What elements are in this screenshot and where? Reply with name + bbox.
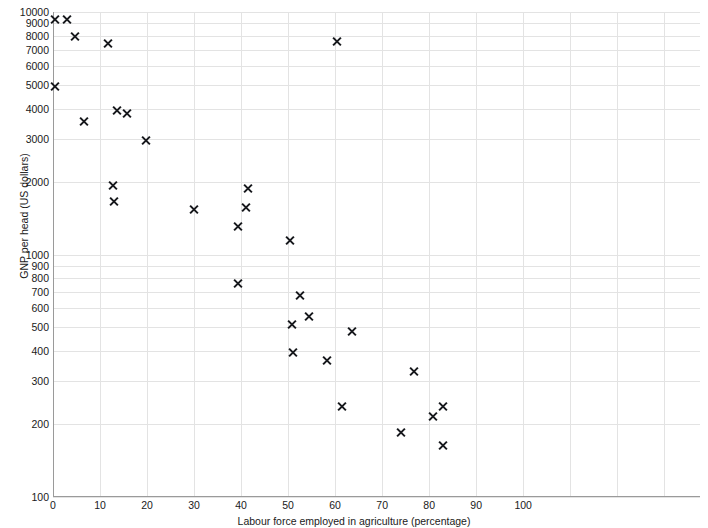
data-point (78, 116, 89, 127)
x-tick-label-10: 10 (94, 500, 106, 511)
data-point (322, 355, 333, 366)
data-point (243, 183, 254, 194)
data-point (438, 401, 449, 412)
y-tick-label-10000: 10000 (20, 7, 49, 18)
y-tick-label-600: 600 (31, 303, 49, 314)
gridline-y-10000 (53, 12, 700, 13)
gridline-y-9000 (53, 23, 700, 24)
y-tick-label-300: 300 (31, 376, 49, 387)
x-tick-label-70: 70 (376, 500, 388, 511)
y-tick-label-700: 700 (31, 287, 49, 298)
data-point (233, 221, 244, 232)
x-tick-label-50: 50 (282, 500, 294, 511)
gridline-y-4000 (53, 109, 700, 110)
plot-area (53, 12, 700, 497)
x-axis-title: Labour force employed in agriculture (pe… (0, 515, 708, 527)
y-tick-label-9000: 9000 (26, 18, 49, 29)
data-point (121, 108, 132, 119)
y-tick-label-200: 200 (31, 419, 49, 430)
gridline-y-300 (53, 381, 700, 382)
gridline-y-5000 (53, 85, 700, 86)
gridline-y-500 (53, 327, 700, 328)
gridline-y-400 (53, 351, 700, 352)
data-point (111, 105, 122, 116)
y-tick-label-500: 500 (31, 322, 49, 333)
data-point (332, 36, 343, 47)
gridline-y-600 (53, 308, 700, 309)
x-tick-label-60: 60 (329, 500, 341, 511)
gridline-y-100 (53, 497, 700, 498)
y-tick-label-400: 400 (31, 346, 49, 357)
gridline-y-7000 (53, 50, 700, 51)
data-point (103, 38, 114, 49)
x-tick-label-100: 100 (514, 500, 532, 511)
x-tick-label-30: 30 (188, 500, 200, 511)
gridline-y-6000 (53, 66, 700, 67)
data-point (395, 427, 406, 438)
x-tick-label-20: 20 (141, 500, 153, 511)
data-point (285, 235, 296, 246)
x-tick-label-0: 0 (50, 500, 56, 511)
x-tick-label-40: 40 (235, 500, 247, 511)
y-tick-label-8000: 8000 (26, 30, 49, 41)
gridline-y-8000 (53, 36, 700, 37)
gridline-y-700 (53, 292, 700, 293)
y-tick-label-900: 900 (31, 260, 49, 271)
y-tick-label-7000: 7000 (26, 44, 49, 55)
gridline-y-3000 (53, 139, 700, 140)
gridline-y-800 (53, 278, 700, 279)
x-tick-label-80: 80 (423, 500, 435, 511)
data-point (438, 440, 449, 451)
data-point (109, 196, 120, 207)
gridline-y-900 (53, 266, 700, 267)
data-point (140, 135, 151, 146)
data-point (70, 31, 81, 42)
x-axis-line (53, 496, 700, 497)
y-tick-label-6000: 6000 (26, 61, 49, 72)
gridline-y-200 (53, 424, 700, 425)
x-tick-label-90: 90 (470, 500, 482, 511)
y-axis-line (53, 12, 54, 497)
y-tick-label-800: 800 (31, 273, 49, 284)
gridline-y-1000 (53, 255, 700, 256)
data-point (409, 366, 420, 377)
gridline-y-2000 (53, 182, 700, 183)
y-axis-title: GNP per head (US dollars) (18, 96, 30, 336)
y-tick-label-5000: 5000 (26, 80, 49, 91)
data-point (233, 278, 244, 289)
x-axis-tick-labels: 0102030405060708090100 (0, 500, 708, 516)
data-point (304, 311, 315, 322)
data-point (50, 81, 61, 92)
data-point (337, 401, 348, 412)
chart-canvas: 1002003004005006007008009001000200030004… (0, 0, 708, 528)
